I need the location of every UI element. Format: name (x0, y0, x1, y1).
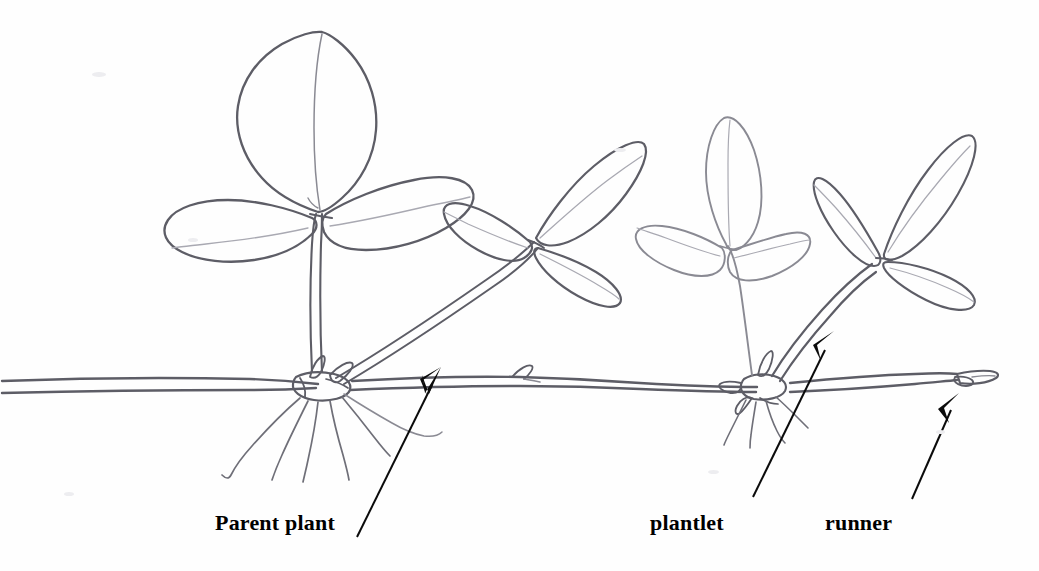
parent-plant-roots (222, 394, 442, 482)
scan-speck (64, 492, 74, 496)
parent-plant (164, 32, 646, 482)
figure-canvas: Parent plant plantlet runner (0, 0, 1039, 571)
parent-side-leaf-cluster (444, 142, 646, 307)
scan-speck (188, 238, 198, 242)
runner-tip-bud (954, 371, 998, 386)
scan-speck (936, 430, 945, 434)
scan-speck (92, 72, 106, 77)
plant-runner-illustration (0, 0, 1039, 571)
runner-stem (2, 365, 998, 393)
plantlet-node (719, 351, 786, 414)
runner-arrow (912, 393, 959, 499)
runner-label: runner (825, 510, 892, 536)
runner-arrow-head (938, 393, 959, 423)
scan-speck (708, 470, 719, 474)
plantlet (636, 117, 976, 448)
scan-speck (614, 148, 626, 152)
plantlet-roots (724, 397, 808, 448)
plantlet-right-leaf-cluster (814, 135, 976, 310)
plantlet-arrow-head (813, 331, 834, 361)
parent-plant-label: Parent plant (215, 510, 335, 536)
plantlet-left-leaf-cluster (636, 117, 811, 280)
parent-upper-leaf-cluster (164, 32, 473, 262)
parent-plant-arrow (357, 367, 441, 537)
plantlet-label: plantlet (650, 510, 724, 536)
